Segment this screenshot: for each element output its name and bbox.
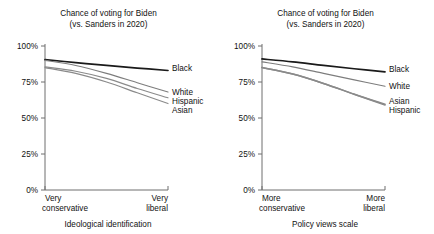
xlabel-left-line1: Very [45, 194, 62, 203]
ytick-label-0: 0% [243, 186, 255, 195]
series-label-asian: Asian [172, 106, 193, 115]
figure-two-panel-line-charts: Chance of voting for Biden (vs. Sanders … [0, 0, 434, 234]
ytick-label-75: 75% [22, 78, 38, 87]
ytick-label-100: 100% [234, 42, 255, 51]
xlabel-left-line2: conservative [259, 204, 305, 213]
ytick-label-0: 0% [26, 186, 38, 195]
series-label-hispanic: Hispanic [389, 106, 420, 115]
ytick-label-75: 75% [239, 78, 255, 87]
series-label-white: White [172, 88, 193, 97]
xlabel-left-line1: More [262, 194, 281, 203]
x-axis-name: Policy views scale [292, 220, 358, 229]
ytick-label-50: 50% [239, 114, 255, 123]
ytick-label-25: 25% [239, 150, 255, 159]
panel-ideological-identification: Chance of voting for Biden (vs. Sanders … [0, 0, 217, 234]
series-label-asian: Asian [389, 97, 410, 106]
xlabel-right-line1: Very [152, 194, 169, 203]
ytick-label-100: 100% [17, 42, 38, 51]
x-axis-name: Ideological identification [65, 220, 152, 229]
xlabel-right-line2: liberal [363, 204, 385, 213]
plot-area-policy: 100% 75% 50% 25% 0% Black White Asian Hi… [217, 0, 434, 234]
series-label-white: White [389, 82, 410, 91]
xlabel-right-line2: liberal [146, 204, 168, 213]
ytick-label-50: 50% [22, 114, 38, 123]
series-label-black: Black [172, 64, 193, 73]
series-label-black: Black [389, 65, 410, 74]
xlabel-right-line1: More [366, 194, 385, 203]
xlabel-left-line2: conservative [42, 204, 88, 213]
ytick-label-25: 25% [22, 150, 38, 159]
series-label-hispanic: Hispanic [172, 97, 203, 106]
plot-area-ideology: 100% 75% 50% 25% 0% Black White Hispanic… [0, 0, 217, 234]
series-line-black [262, 59, 385, 72]
panel-policy-views-scale: Chance of voting for Biden (vs. Sanders … [217, 0, 434, 234]
